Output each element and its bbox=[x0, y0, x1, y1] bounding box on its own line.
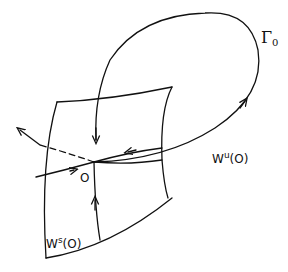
outgoing-arrow bbox=[20, 130, 40, 145]
diagram-canvas: Γ0 Wu(O) Ws(O) O bbox=[0, 0, 288, 272]
surface-right-edge bbox=[162, 87, 172, 198]
stable-manifold-label: Ws(O) bbox=[46, 236, 81, 250]
surface-top-edge bbox=[57, 87, 172, 102]
unstable-manifold-label: Wu(O) bbox=[212, 151, 248, 165]
surface-left-edge bbox=[44, 102, 57, 258]
homoclinic-orbit bbox=[94, 13, 259, 162]
diagram-svg bbox=[0, 0, 288, 272]
fixed-point-label: O bbox=[80, 172, 89, 184]
orbit-label: Γ0 bbox=[261, 30, 278, 48]
